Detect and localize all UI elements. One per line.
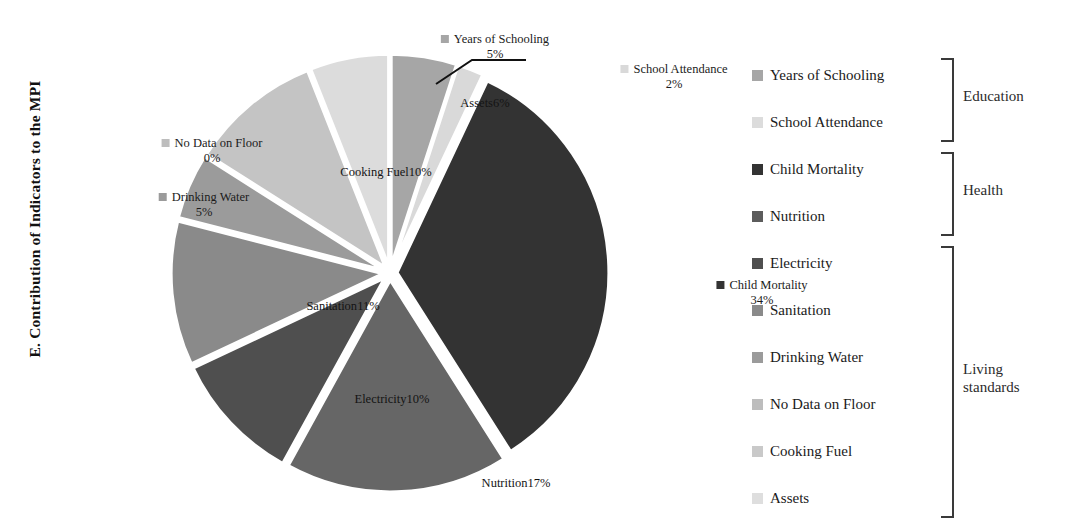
group-bracket — [941, 58, 954, 142]
pie-chart-svg — [140, 18, 660, 530]
pie-label-swatch-icon — [620, 65, 628, 73]
pie-label-swatch-icon — [159, 193, 167, 201]
pie-label-value: 11% — [357, 299, 379, 313]
pie-label-name: Cooking Fuel — [340, 165, 408, 179]
pie-slice-label: Assets6% — [460, 96, 509, 111]
pie-label-value: 5% — [441, 47, 549, 62]
pie-label-name: Assets — [460, 96, 493, 110]
pie-label-swatch-icon — [162, 139, 170, 147]
legend-swatch-icon — [752, 446, 763, 457]
legend-item[interactable]: School Attendance — [752, 99, 952, 146]
legend-swatch-icon — [752, 493, 763, 504]
pie-label-name: No Data on Floor — [162, 136, 263, 150]
legend-item-label: Nutrition — [770, 208, 825, 225]
pie-callout-label: School Attendance2% — [620, 62, 727, 93]
legend-swatch-icon — [752, 211, 763, 222]
legend-item[interactable]: Drinking Water — [752, 334, 952, 381]
chart-legend: Years of SchoolingSchool AttendanceChild… — [752, 52, 952, 522]
group-label-line: standards — [963, 379, 1020, 397]
pie-label-swatch-icon — [716, 281, 724, 289]
group-bracket — [941, 246, 954, 518]
legend-item[interactable]: Child Mortality — [752, 146, 952, 193]
pie-label-value: 5% — [159, 205, 250, 220]
legend-item-label: Child Mortality — [770, 161, 864, 178]
group-bracket — [941, 152, 954, 236]
legend-swatch-icon — [752, 305, 763, 316]
pie-slice-label: Nutrition17% — [482, 476, 551, 491]
pie-label-name: Nutrition — [482, 476, 528, 490]
legend-swatch-icon — [752, 164, 763, 175]
pie-callout-label: Years of Schooling5% — [441, 32, 549, 63]
legend-item-label: Cooking Fuel — [770, 443, 852, 460]
group-label: Livingstandards — [963, 361, 1020, 396]
legend-item[interactable]: Cooking Fuel — [752, 428, 952, 475]
pie-label-value: 6% — [493, 96, 510, 110]
pie-label-name: Sanitation — [306, 299, 357, 313]
legend-swatch-icon — [752, 258, 763, 269]
vertical-axis-title: E. Contribution of Indicators to the MPI — [26, 34, 44, 404]
legend-item-label: Years of Schooling — [770, 67, 884, 84]
legend-item[interactable]: Nutrition — [752, 193, 952, 240]
pie-label-value: 0% — [162, 151, 263, 166]
legend-item-label: School Attendance — [770, 114, 883, 131]
legend-item-label: Electricity — [770, 255, 832, 272]
legend-item-label: No Data on Floor — [770, 396, 875, 413]
pie-callout-label: Drinking Water5% — [159, 190, 250, 221]
legend-swatch-icon — [752, 70, 763, 81]
legend-item-label: Sanitation — [770, 302, 831, 319]
pie-label-value: 10% — [409, 165, 432, 179]
legend-item[interactable]: Electricity — [752, 240, 952, 287]
legend-swatch-icon — [752, 117, 763, 128]
legend-item[interactable]: No Data on Floor — [752, 381, 952, 428]
pie-label-value: 10% — [407, 392, 430, 406]
legend-swatch-icon — [752, 399, 763, 410]
group-label-line: Living — [963, 361, 1020, 379]
legend-item-label: Drinking Water — [770, 349, 863, 366]
legend-item-label: Assets — [770, 490, 809, 507]
pie-callout-label: No Data on Floor0% — [162, 136, 263, 167]
pie-label-name: Drinking Water — [159, 190, 250, 204]
pie-label-value: 17% — [527, 476, 550, 490]
legend-item[interactable]: Sanitation — [752, 287, 952, 334]
pie-label-name: Years of Schooling — [441, 32, 549, 46]
legend-item[interactable]: Years of Schooling — [752, 52, 952, 99]
legend-item[interactable]: Assets — [752, 475, 952, 522]
pie-slice-label: Cooking Fuel10% — [340, 165, 431, 180]
pie-slice-label: Electricity10% — [355, 392, 430, 407]
chart-figure: E. Contribution of Indicators to the MPI… — [0, 0, 1075, 530]
group-label: Health — [963, 182, 1003, 200]
group-label: Education — [963, 88, 1024, 106]
pie-label-name: Electricity — [355, 392, 407, 406]
legend-swatch-icon — [752, 352, 763, 363]
pie-chart-area: Years of Schooling5%School Attendance2%C… — [140, 18, 660, 530]
pie-label-swatch-icon — [441, 35, 449, 43]
pie-slice-label: Sanitation11% — [306, 299, 379, 314]
pie-label-value: 2% — [620, 77, 727, 92]
pie-label-name: School Attendance — [620, 62, 727, 76]
